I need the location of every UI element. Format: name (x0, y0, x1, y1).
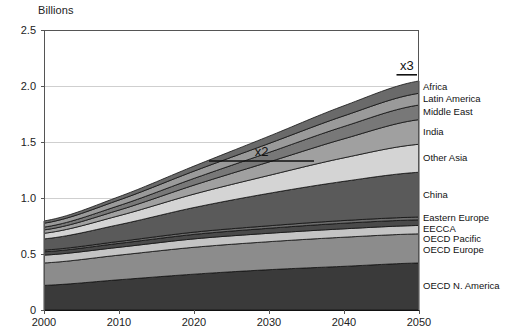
y-tick-label: 0.5 (2, 248, 36, 260)
legend-label-oecd-europe: OECD Europe (423, 245, 484, 255)
y-tick-label: 2.5 (2, 24, 36, 36)
legend-label-china: China (423, 190, 448, 200)
legend-label-oecd-n-america: OECD N. America (423, 281, 500, 291)
legend-label-eecca: EECCA (423, 224, 456, 234)
x-tick-label: 2030 (246, 316, 292, 328)
y-tick-label: 1.0 (2, 192, 36, 204)
legend-label-oecd-pacific: OECD Pacific (423, 234, 481, 244)
legend-label-latin-america: Latin America (423, 94, 481, 104)
y-tick-label: 2.0 (2, 80, 36, 92)
y-tick-label: 1.5 (2, 136, 36, 148)
x-tick-label: 2050 (396, 316, 442, 328)
legend-label-africa: Africa (423, 82, 447, 92)
legend-label-middle-east: Middle East (423, 107, 473, 117)
stacked-area-chart: Billions 00.51.01.52.02.5 20002010202020… (0, 0, 518, 333)
annotation-x3: x3 (400, 58, 414, 73)
legend-label-other-asia: Other Asia (423, 153, 467, 163)
x-tick-label: 2020 (171, 316, 217, 328)
x-tick-label: 2000 (21, 316, 67, 328)
x-tick-label: 2040 (321, 316, 367, 328)
x-tick-label: 2010 (96, 316, 142, 328)
y-tick-label: 0 (2, 304, 36, 316)
annotation-x2: x2 (255, 144, 269, 159)
legend-label-eastern-europe: Eastern Europe (423, 213, 489, 223)
legend-label-india: India (423, 127, 444, 137)
